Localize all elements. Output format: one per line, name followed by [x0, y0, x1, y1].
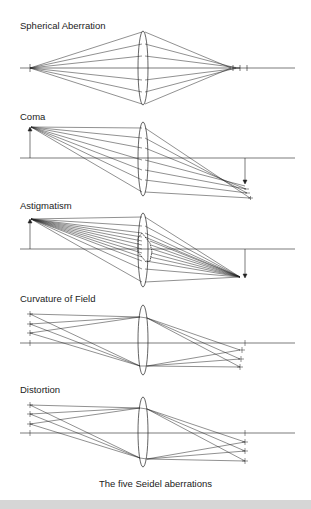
seidel-aberrations-diagram — [0, 0, 311, 509]
image-arrowhead — [243, 180, 247, 184]
object-arrowhead — [28, 127, 32, 131]
lens — [138, 305, 148, 375]
spherical-aberration-panel — [20, 31, 295, 105]
image-arrowhead — [243, 274, 247, 278]
distortion-panel — [20, 397, 295, 467]
object-arrowhead — [28, 219, 32, 223]
lens — [138, 397, 148, 467]
lens — [138, 213, 148, 287]
figure-caption: The five Seidel aberrations — [0, 478, 311, 489]
astigmatism-panel — [20, 213, 295, 287]
bottom-band — [0, 500, 311, 509]
coma-panel — [20, 122, 295, 200]
curvature-of-field-panel — [20, 305, 295, 375]
astigmatic-pupil-outline — [138, 233, 152, 262]
